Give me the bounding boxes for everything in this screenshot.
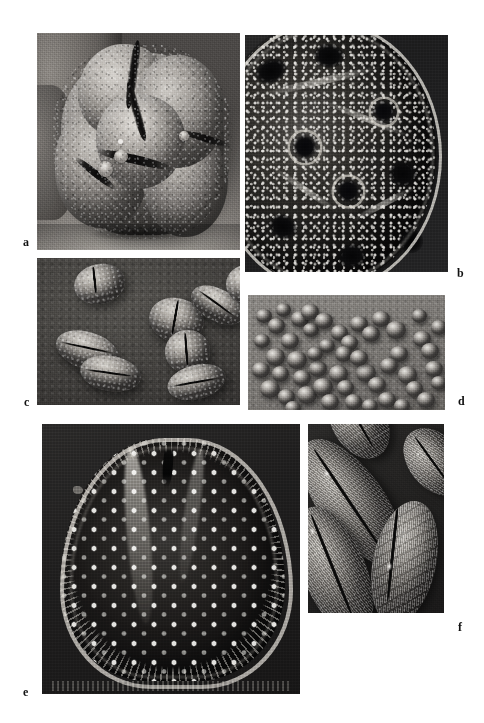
panel-label-e: e: [23, 686, 28, 698]
panel-d-pollen-grain: [368, 377, 386, 393]
panel-d-pollen-grain: [309, 361, 327, 377]
panel-label-d: d: [458, 395, 465, 407]
panel-c-sulcus: [60, 341, 115, 355]
panel-d-pollen-grain: [345, 394, 363, 410]
panel-e-micrograph: [42, 424, 300, 694]
panel-d-scene: [248, 295, 445, 410]
panel-c-sulcus: [170, 299, 179, 334]
panel-a-scene: [37, 33, 240, 250]
panel-f-micrograph: [308, 424, 444, 613]
panel-d-pollen-grain: [285, 401, 301, 410]
panel-d-pollen-grain: [380, 358, 398, 374]
panel-d-pollen-grain: [417, 392, 435, 408]
panel-d-pollen-grain: [431, 320, 445, 334]
panel-b-scene: [245, 35, 448, 272]
panel-d-pollen-grain: [394, 399, 410, 411]
panel-d-pollen-grain: [266, 348, 286, 366]
panel-c-scene: [37, 258, 240, 405]
figure-plate: a b c: [0, 0, 484, 723]
panel-label-f: f: [458, 621, 462, 633]
panel-b-micrograph: [245, 35, 448, 272]
panel-label-b: b: [457, 267, 464, 279]
panel-d-pollen-grain: [412, 309, 428, 323]
panel-c-micrograph: [37, 258, 240, 405]
panel-a-cast-shadow: [69, 224, 211, 244]
panel-c-sulcus: [92, 267, 97, 293]
panel-label-c: c: [24, 396, 29, 408]
panel-c-sulcus: [170, 377, 220, 388]
panel-c-sulcus: [83, 369, 136, 379]
panel-d-pollen-grain: [362, 399, 378, 411]
panel-d-pollen-grain: [307, 347, 323, 361]
panel-d-pollen-grain: [321, 394, 339, 410]
panel-f-scene: [308, 424, 444, 613]
panel-d-pollen-grain: [252, 362, 270, 378]
panel-e-scene: [42, 424, 300, 694]
panel-c-sulcus: [183, 333, 188, 365]
panel-d-pollen-grain: [293, 370, 311, 386]
panel-d-pollen-grain: [254, 334, 270, 348]
panel-a-micrograph: [37, 33, 240, 250]
panel-d-pollen-grain: [425, 361, 443, 377]
panel-d-pollen-grain: [431, 376, 445, 390]
panel-d-pollen-grain: [260, 380, 280, 398]
panel-label-a: a: [23, 236, 29, 248]
panel-d-micrograph: [248, 295, 445, 410]
panel-d-pollen-grain: [386, 321, 406, 339]
panel-d-pollen-grain: [362, 326, 380, 342]
panel-d-pollen-grain: [313, 378, 333, 396]
panel-b-inner-rim: [245, 35, 434, 272]
panel-e-stage-edge: [52, 681, 289, 692]
